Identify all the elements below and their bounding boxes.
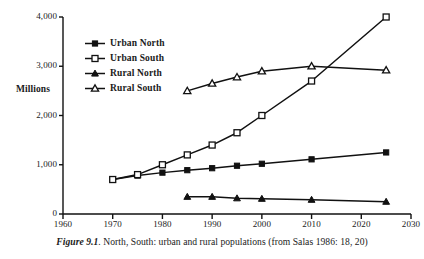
open-square-marker [159, 162, 165, 168]
filled-triangle-marker [84, 66, 106, 79]
open-square-marker [135, 172, 141, 178]
open-square-marker [110, 177, 116, 183]
filled-square-marker [259, 161, 264, 166]
open-triangle-marker [258, 68, 265, 74]
figure-number: Figure 9.1 [56, 236, 98, 247]
x-tick-label: 2010 [292, 219, 332, 229]
y-tick-label: 0 [13, 208, 57, 218]
x-tick-label: 2000 [242, 219, 282, 229]
chart-series [184, 193, 390, 204]
filled-square-marker [384, 150, 389, 155]
legend-item-label: Urban North [110, 38, 165, 48]
x-tick-label: 1980 [142, 219, 182, 229]
chart-series [184, 63, 390, 94]
open-triangle-marker [91, 85, 98, 91]
chart-legend: Urban NorthUrban SouthRural NorthRural S… [84, 36, 165, 94]
y-tick-label: 2,000 [13, 110, 57, 120]
filled-square-marker [185, 168, 190, 173]
open-square-marker [84, 51, 106, 64]
open-triangle-marker [84, 81, 106, 94]
chart-svg [0, 0, 424, 232]
filled-square-marker [92, 41, 97, 46]
legend-item-label: Rural North [110, 68, 162, 78]
legend-item-urban-north: Urban North [84, 36, 165, 49]
x-tick-label: 2030 [391, 219, 424, 229]
open-square-marker [234, 130, 240, 136]
x-tick-label: 1960 [43, 219, 83, 229]
open-square-marker [184, 152, 190, 158]
legend-item-label: Urban South [110, 53, 164, 63]
open-triangle-marker [383, 67, 390, 73]
x-tick-label: 2020 [341, 219, 381, 229]
x-tick-label: 1970 [93, 219, 133, 229]
filled-square-marker [309, 157, 314, 162]
legend-item-label: Rural South [110, 83, 162, 93]
y-tick-label: 1,000 [13, 159, 57, 169]
open-square-marker [309, 78, 315, 84]
open-triangle-marker [308, 63, 315, 69]
legend-item-rural-south: Rural South [84, 81, 165, 94]
open-triangle-marker [209, 80, 216, 86]
open-square-marker [209, 142, 215, 148]
open-square-marker [383, 14, 389, 20]
legend-item-urban-south: Urban South [84, 51, 165, 64]
chart-series [110, 150, 389, 182]
open-triangle-marker [233, 73, 240, 79]
open-triangle-marker [184, 87, 191, 93]
filled-square-marker [160, 170, 165, 175]
y-axis-title: Millions [16, 84, 50, 94]
legend-item-rural-north: Rural North [84, 66, 165, 79]
open-square-marker [92, 56, 98, 62]
y-tick-label: 4,000 [13, 11, 57, 21]
filled-square-marker [234, 163, 239, 168]
open-square-marker [259, 113, 265, 119]
figure-caption-text: . North, South: urban and rural populati… [98, 236, 367, 247]
figure-container: Millions 01,0002,0003,0004,0001960197019… [0, 0, 424, 259]
chart-plot-area [0, 0, 424, 232]
filled-square-marker [84, 36, 106, 49]
figure-caption: Figure 9.1. North, South: urban and rura… [0, 236, 424, 247]
x-tick-label: 1990 [192, 219, 232, 229]
filled-square-marker [210, 166, 215, 171]
y-tick-label: 3,000 [13, 60, 57, 70]
